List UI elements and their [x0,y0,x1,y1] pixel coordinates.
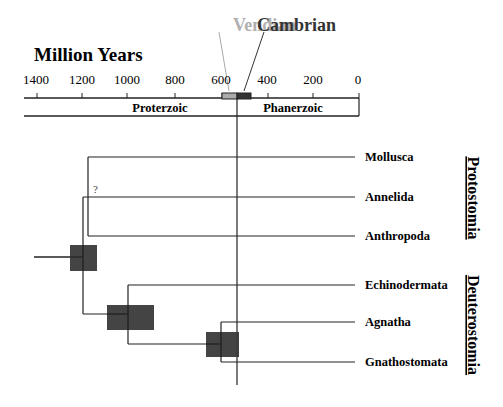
tick-label: 200 [303,72,323,87]
tick-label: 1400 [23,72,49,87]
taxon-label-gnathostomata: Gnathostomata [365,355,448,369]
phylogeny-diagram: Million Years Vendian Cambrian 1400 1200… [0,0,503,407]
tick-label: 0 [355,72,362,87]
taxon-label-mollusca: Mollusca [365,150,414,164]
taxon-label-anthropoda: Anthropoda [365,229,431,243]
taxon-label-agnatha: Agnatha [365,315,412,329]
taxon-label-annelida: Annelida [365,190,414,204]
eon-label-phanerozoic: Phanerzoic [263,101,323,115]
timescale: Million Years Vendian Cambrian 1400 1200… [23,15,361,116]
eon-label-proterozoic: Proterzoic [132,101,188,115]
node-box-deuterostomia [107,305,154,330]
group-label-protostomia: Protostomia [465,156,482,239]
group-label-deuterostomia: Deuterostomia [465,275,482,375]
tick-label: 1000 [114,72,140,87]
period-label-cambrian: Cambrian [257,15,336,35]
uncertain-marker: ? [93,183,98,195]
axis-title: Million Years [34,44,143,65]
vendian-bar [222,93,237,99]
tick-label: 600 [211,72,231,87]
tick-label: 400 [257,72,277,87]
tick-marks [37,93,359,98]
cambrian-bar [237,93,251,99]
tick-label: 1200 [69,72,95,87]
taxon-label-echinodermata: Echinodermata [365,278,448,292]
tick-label: 800 [165,72,185,87]
